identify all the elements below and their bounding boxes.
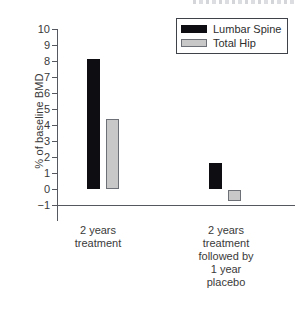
legend-item-total-hip: Total Hip bbox=[181, 36, 282, 50]
chart-legend: Lumbar Spine Total Hip bbox=[176, 18, 288, 54]
zero-baseline bbox=[57, 205, 295, 206]
clipped-header-artifact bbox=[193, 0, 297, 4]
x-category-label-group-2-line-1: 2 years bbox=[183, 224, 269, 237]
plot-area: 10 9 8 7 6 5 4 3 2 1 0 −1 bbox=[57, 29, 295, 221]
x-category-label-group-2-line-3: followed by bbox=[183, 250, 269, 263]
bar-total-hip-group-1 bbox=[106, 119, 119, 189]
bar-lumbar-spine-group-2 bbox=[209, 163, 222, 189]
legend-item-lumbar-spine: Lumbar Spine bbox=[181, 22, 282, 36]
legend-swatch-lumbar-spine-icon bbox=[181, 25, 207, 33]
y-axis-line bbox=[57, 29, 58, 221]
x-category-label-group-1-line-2: treatment bbox=[58, 237, 138, 250]
bar-total-hip-group-2 bbox=[228, 190, 241, 201]
x-category-label-group-1-line-1: 2 years bbox=[58, 224, 138, 237]
x-category-label-group-2: 2 years treatment followed by 1 year pla… bbox=[183, 224, 269, 289]
x-category-label-group-2-line-4: 1 year bbox=[183, 263, 269, 276]
chart-figure: % of baseline BMD 10 9 8 7 6 5 4 3 2 1 0… bbox=[0, 0, 300, 311]
x-category-label-group-2-line-5: placebo bbox=[183, 276, 269, 289]
x-category-label-group-1: 2 years treatment bbox=[58, 224, 138, 250]
legend-label-lumbar-spine: Lumbar Spine bbox=[213, 23, 282, 35]
legend-label-total-hip: Total Hip bbox=[213, 37, 256, 49]
legend-swatch-total-hip-icon bbox=[181, 39, 207, 47]
bar-lumbar-spine-group-1 bbox=[87, 59, 100, 189]
x-category-label-group-2-line-2: treatment bbox=[183, 237, 269, 250]
